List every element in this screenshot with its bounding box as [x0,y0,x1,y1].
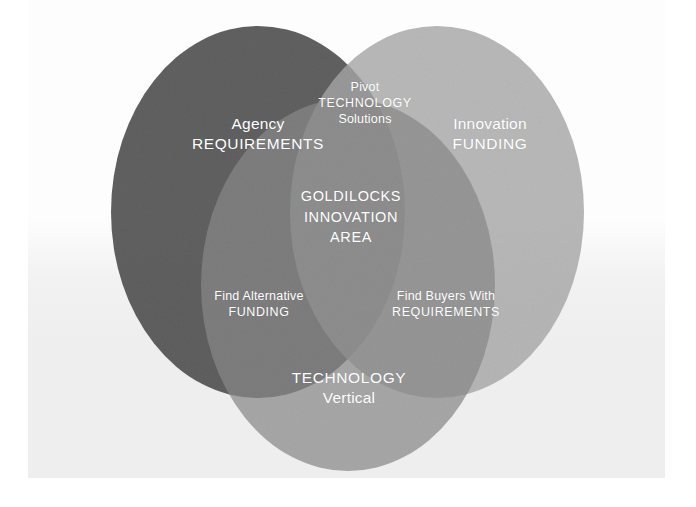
venn-diagram: Agency REQUIREMENTS Innovation FUNDING T… [0,0,696,507]
venn-circles-canvas [0,0,696,507]
circle-technology-vertical [201,99,495,471]
